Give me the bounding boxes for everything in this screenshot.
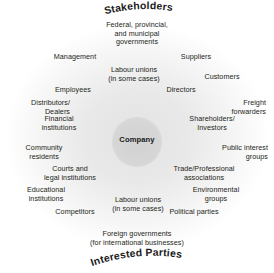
stakeholder-educational-institutions: Educational institutions bbox=[7, 186, 85, 203]
stakeholder-employees: Employees bbox=[35, 86, 111, 95]
stakeholder-shareholders-investors: Shareholders/ Investors bbox=[169, 115, 255, 132]
diagram-title-stakeholders-text: Stakeholders bbox=[103, 0, 174, 16]
stakeholder-foreign-governments: Foreign governments (for international b… bbox=[57, 230, 217, 247]
company-label: Company bbox=[119, 135, 154, 144]
stakeholder-financial-institutions: Financial institutions bbox=[21, 115, 97, 132]
stakeholder-trade-professional-associations: Trade/Professional associations bbox=[152, 165, 256, 182]
stakeholder-competitors: Competitors bbox=[37, 208, 113, 217]
stakeholder-political-parties: Political parties bbox=[151, 208, 237, 217]
stakeholder-directors: Directors bbox=[146, 86, 216, 95]
svg-text:Interested Parties: Interested Parties bbox=[89, 247, 183, 268]
stakeholder-public-interest-groups: Public interest groups bbox=[196, 144, 268, 161]
stakeholder-courts-and-legal-institutions: Courts and legal institutions bbox=[22, 165, 118, 182]
svg-text:Stakeholders: Stakeholders bbox=[103, 0, 174, 16]
stakeholder-management: Management bbox=[35, 53, 115, 62]
diagram-title-interested-parties-text: Interested Parties bbox=[89, 247, 183, 268]
stakeholder-diagram: Stakeholders Interested Parties Company … bbox=[0, 0, 274, 273]
stakeholder-customers: Customers bbox=[186, 73, 258, 82]
diagram-title-interested-parties: Interested Parties bbox=[0, 246, 274, 272]
stakeholder-suppliers: Suppliers bbox=[161, 53, 231, 62]
stakeholder-community-residents: Community residents bbox=[5, 144, 83, 161]
stakeholder-labour-unions-top: Labour unions (in some cases) bbox=[84, 66, 184, 83]
stakeholder-federal-provincial-municipal-governments: Federal, provincial, and municipal gover… bbox=[82, 21, 192, 47]
